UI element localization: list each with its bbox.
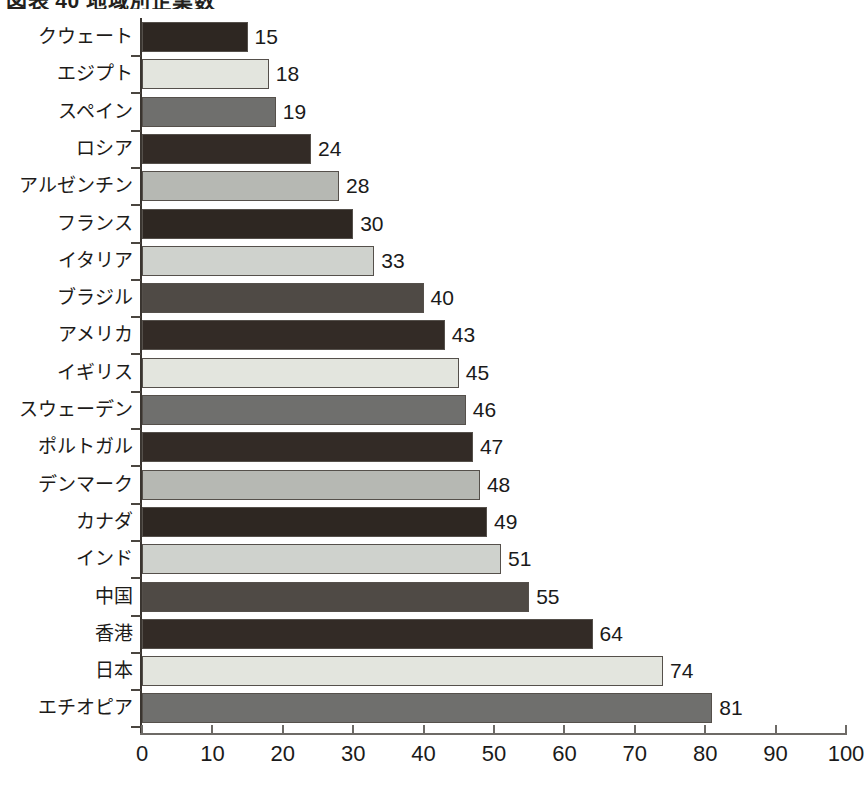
bar-row: フランス30: [0, 206, 865, 243]
y-axis-tick-5: [131, 242, 141, 244]
category-label-9: イギリス: [5, 355, 133, 392]
bar-10: [142, 395, 466, 425]
x-axis-tick-30: [352, 725, 354, 735]
category-label-4: アルゼンチン: [5, 168, 133, 205]
bar-row: スウェーデン46: [0, 392, 865, 429]
x-axis-tick-label-20: 20: [271, 741, 295, 767]
bar-2: [142, 97, 276, 127]
bar-value-label-6: 33: [381, 243, 404, 280]
y-axis-tick-4: [131, 204, 141, 206]
y-axis-tick-7: [131, 316, 141, 318]
y-axis-tick-0: [131, 55, 141, 57]
bar-value-label-3: 24: [318, 131, 341, 168]
x-axis-tick-label-100: 100: [828, 741, 865, 767]
bar-value-label-8: 43: [452, 317, 475, 354]
bar-value-label-18: 81: [719, 690, 742, 727]
bar-chart-figure: 図表 40 地域別企業数 クウェート15エジプト18スペイン19ロシア24アルゼ…: [0, 0, 865, 789]
category-label-2: スペイン: [5, 94, 133, 131]
y-axis-tick-15: [131, 615, 141, 617]
bar-16: [142, 619, 593, 649]
bar-row: ポルトガル47: [0, 429, 865, 466]
y-axis-tick-1: [131, 92, 141, 94]
x-axis-tick-label-30: 30: [341, 741, 365, 767]
bar-0: [142, 22, 248, 52]
bar-5: [142, 209, 353, 239]
bar-4: [142, 171, 339, 201]
category-label-16: 香港: [5, 616, 133, 653]
y-axis-tick-13: [131, 540, 141, 542]
category-label-12: デンマーク: [5, 467, 133, 504]
category-label-3: ロシア: [5, 131, 133, 168]
bar-value-label-15: 55: [536, 579, 559, 616]
x-axis-tick-label-60: 60: [552, 741, 576, 767]
bar-row: インド51: [0, 541, 865, 578]
category-label-8: アメリカ: [5, 317, 133, 354]
bar-value-label-7: 40: [431, 280, 454, 317]
bar-row: ロシア24: [0, 131, 865, 168]
bar-row: イギリス45: [0, 355, 865, 392]
y-axis-tick-3: [131, 167, 141, 169]
category-label-18: エチオピア: [5, 690, 133, 727]
x-axis-tick-10: [211, 725, 213, 735]
bar-value-label-9: 45: [466, 355, 489, 392]
category-label-6: イタリア: [5, 243, 133, 280]
x-axis-tick-label-0: 0: [136, 741, 148, 767]
y-axis-tick-10: [131, 428, 141, 430]
bar-8: [142, 320, 445, 350]
x-axis-tick-40: [423, 725, 425, 735]
bar-value-label-2: 19: [283, 94, 306, 131]
bar-18: [142, 693, 712, 723]
category-label-1: エジプト: [5, 56, 133, 93]
bar-value-label-16: 64: [600, 616, 623, 653]
bar-value-label-13: 49: [494, 504, 517, 541]
bar-value-label-10: 46: [473, 392, 496, 429]
bar-value-label-5: 30: [360, 206, 383, 243]
bar-11: [142, 432, 473, 462]
bar-row: クウェート15: [0, 19, 865, 56]
x-axis-tick-80: [704, 725, 706, 735]
y-axis-tick-8: [131, 353, 141, 355]
bar-row: カナダ49: [0, 504, 865, 541]
bar-14: [142, 544, 501, 574]
bar-value-label-4: 28: [346, 168, 369, 205]
x-axis-tick-label-70: 70: [623, 741, 647, 767]
y-axis-tick-17: [131, 689, 141, 691]
category-label-15: 中国: [5, 579, 133, 616]
y-axis-tick-6: [131, 279, 141, 281]
bar-row: イタリア33: [0, 243, 865, 280]
bar-17: [142, 656, 663, 686]
category-label-5: フランス: [5, 206, 133, 243]
category-label-13: カナダ: [5, 504, 133, 541]
category-label-7: ブラジル: [5, 280, 133, 317]
y-axis-tick-16: [131, 652, 141, 654]
bar-15: [142, 582, 529, 612]
x-axis-tick-label-10: 10: [200, 741, 224, 767]
bar-row: 香港64: [0, 616, 865, 653]
bar-6: [142, 246, 374, 276]
x-axis-tick-70: [634, 725, 636, 735]
bar-value-label-14: 51: [508, 541, 531, 578]
bar-value-label-17: 74: [670, 653, 693, 690]
bar-row: ブラジル40: [0, 280, 865, 317]
y-axis-tick-18: [131, 726, 141, 728]
bar-9: [142, 358, 459, 388]
category-label-0: クウェート: [5, 19, 133, 56]
bar-row: デンマーク48: [0, 467, 865, 504]
x-axis-tick-50: [493, 725, 495, 735]
y-axis-tick-9: [131, 391, 141, 393]
bar-row: エチオピア81: [0, 690, 865, 727]
x-axis-tick-20: [282, 725, 284, 735]
bar-row: アメリカ43: [0, 317, 865, 354]
bar-value-label-0: 15: [255, 19, 278, 56]
x-axis-tick-label-40: 40: [411, 741, 435, 767]
bar-row: 日本74: [0, 653, 865, 690]
category-label-10: スウェーデン: [5, 392, 133, 429]
bar-row: エジプト18: [0, 56, 865, 93]
bar-row: アルゼンチン28: [0, 168, 865, 205]
x-axis-tick-90: [775, 725, 777, 735]
category-label-11: ポルトガル: [5, 429, 133, 466]
bar-3: [142, 134, 311, 164]
y-axis-tick-12: [131, 503, 141, 505]
category-label-17: 日本: [5, 653, 133, 690]
bar-row: 中国55: [0, 579, 865, 616]
